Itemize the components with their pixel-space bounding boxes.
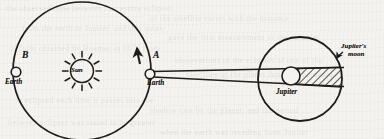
label-jupiters-moon-line1: Jupiter's	[341, 42, 366, 50]
label-earth-a: Earth	[147, 79, 164, 87]
earth-marker-b	[11, 67, 21, 77]
jupiter-disc	[282, 67, 300, 85]
orbit-direction-arrow-icon	[137, 48, 140, 64]
label-point-a: A	[153, 50, 159, 60]
label-jupiters-moon-line2: moon	[341, 50, 366, 58]
label-earth-b: Earth	[5, 78, 22, 86]
diagram-canvas	[0, 0, 384, 139]
label-sun: Sun	[71, 66, 83, 74]
label-point-b: B	[22, 50, 28, 60]
label-jupiter: Jupiter	[276, 88, 297, 96]
label-jupiters-moon: Jupiter's moon	[341, 42, 366, 58]
figure-container: the observed time between successive ecl…	[0, 0, 384, 139]
